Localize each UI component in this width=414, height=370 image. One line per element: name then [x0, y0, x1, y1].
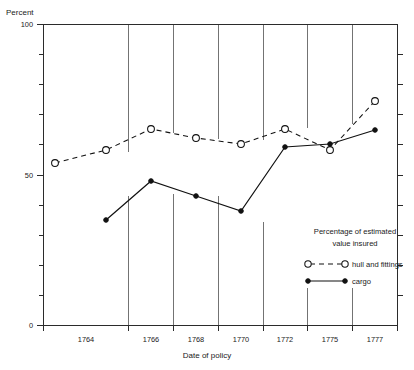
- cargo-point-1777: [328, 142, 333, 147]
- hull-point-1770: [193, 135, 200, 142]
- cargo-point-1770: [194, 194, 199, 199]
- y-tick-label-100: 100: [21, 20, 33, 29]
- x-tick-label-1768: 1768: [188, 335, 204, 344]
- hull-point-1772: [238, 141, 245, 148]
- legend: Percentage of estimated value insured hu…: [305, 227, 403, 286]
- legend-cargo-marker-right: [343, 279, 348, 284]
- x-tick-label-1777: 1777: [367, 335, 383, 344]
- hull-point-1779: [372, 98, 379, 105]
- legend-cargo-label: cargo: [352, 277, 371, 286]
- x-tick-label-1772: 1772: [277, 335, 293, 344]
- cargo-point-1779: [373, 128, 378, 133]
- x-tick-label-1775: 1775: [322, 335, 338, 344]
- x-axis-ticks: [44, 326, 398, 332]
- x-tick-label-1770: 1770: [233, 335, 249, 344]
- x-axis-title: Date of policy: [183, 351, 231, 360]
- hull-point-1764: [52, 160, 59, 167]
- y-axis-ticks: [37, 25, 44, 326]
- vertical-gridlines: [129, 25, 353, 326]
- hull-point-1768: [148, 126, 155, 133]
- cargo-point-1775: [283, 145, 288, 150]
- hull-line: [55, 101, 375, 163]
- hull-point-1766: [103, 147, 110, 154]
- legend-entry-hull-and-fittings: hull and fittings: [305, 260, 403, 269]
- y-tick-label-50: 50: [25, 171, 33, 180]
- legend-entry-cargo: cargo: [306, 277, 371, 286]
- legend-cargo-marker-left: [306, 279, 311, 284]
- hull-point-1775: [282, 126, 289, 133]
- legend-hull-marker-right: [342, 261, 348, 267]
- y-axis-title: Percent: [6, 8, 34, 17]
- x-tick-label-1766: 1766: [143, 335, 159, 344]
- chart-container: Percent: [0, 0, 414, 370]
- line-chart: Percent: [0, 0, 414, 370]
- legend-hull-marker-left: [305, 261, 311, 267]
- cargo-point-1766: [104, 218, 109, 223]
- x-tick-label-1764: 1764: [78, 335, 94, 344]
- hull-point-1777: [327, 147, 334, 154]
- legend-title-line-2: value insured: [332, 239, 377, 248]
- legend-hull-label: hull and fittings: [352, 260, 403, 269]
- cargo-point-1768: [149, 179, 154, 184]
- cargo-point-1772: [239, 209, 244, 214]
- y-tick-label-0: 0: [29, 321, 33, 330]
- legend-title-line-1: Percentage of estimated: [314, 227, 396, 236]
- series-hull-and-fittings: [52, 98, 379, 167]
